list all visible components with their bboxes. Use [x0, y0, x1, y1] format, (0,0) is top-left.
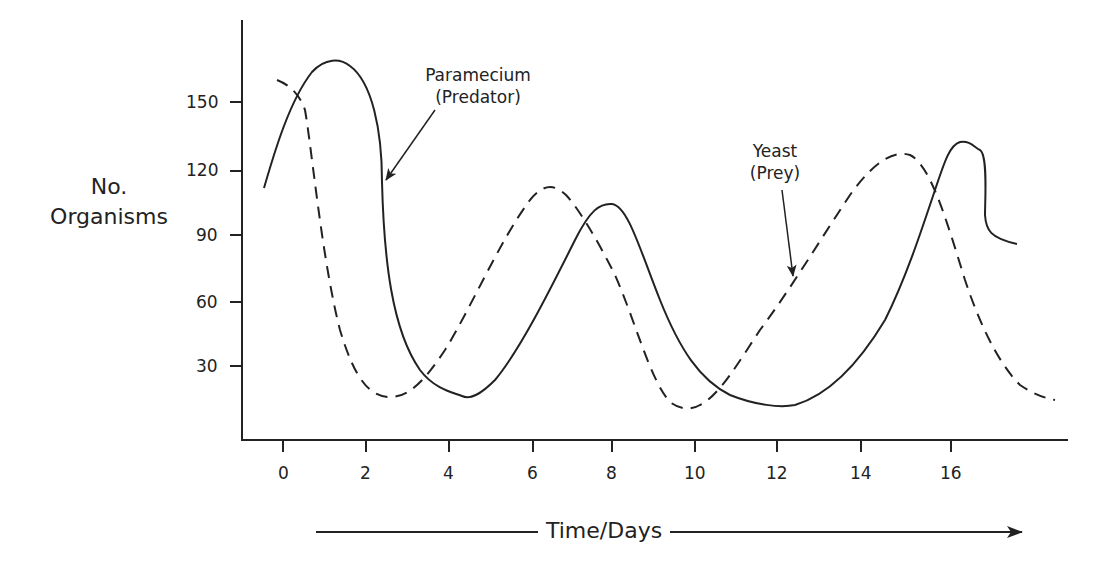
prey-annotation: Yeast (Prey)	[730, 140, 820, 184]
y-tick-label: 150	[186, 92, 218, 112]
x-tick-label: 6	[527, 463, 538, 483]
y-tick-label: 60	[196, 292, 218, 312]
y-tick-label: 90	[196, 225, 218, 245]
y-tick-label: 120	[186, 160, 218, 180]
predator-annotation-line2: (Predator)	[418, 86, 538, 108]
prey-arrow	[782, 190, 793, 276]
y-axis-label-line1: No.	[34, 172, 184, 202]
x-ticks	[283, 440, 951, 452]
x-tick-label: 12	[766, 463, 788, 483]
x-tick-label: 2	[360, 463, 371, 483]
x-tick-label: 0	[278, 463, 289, 483]
x-axis-label: Time/Days	[538, 518, 670, 543]
predator-curve	[264, 61, 1017, 407]
x-tick-label: 16	[940, 463, 962, 483]
x-tick-label: 8	[606, 463, 617, 483]
y-tick-label: 30	[196, 356, 218, 376]
x-tick-label: 14	[850, 463, 872, 483]
prey-curve	[277, 80, 1055, 408]
predator-annotation: Paramecium (Predator)	[418, 64, 538, 108]
y-axis-label: No. Organisms	[34, 172, 184, 232]
chart-canvas	[0, 0, 1101, 580]
y-ticks	[230, 102, 242, 366]
prey-annotation-line2: (Prey)	[730, 162, 820, 184]
x-tick-label: 10	[684, 463, 706, 483]
prey-annotation-line1: Yeast	[730, 140, 820, 162]
x-tick-label: 4	[443, 463, 454, 483]
predator-arrow	[386, 110, 435, 180]
y-axis-label-line2: Organisms	[34, 202, 184, 232]
predator-annotation-line1: Paramecium	[418, 64, 538, 86]
